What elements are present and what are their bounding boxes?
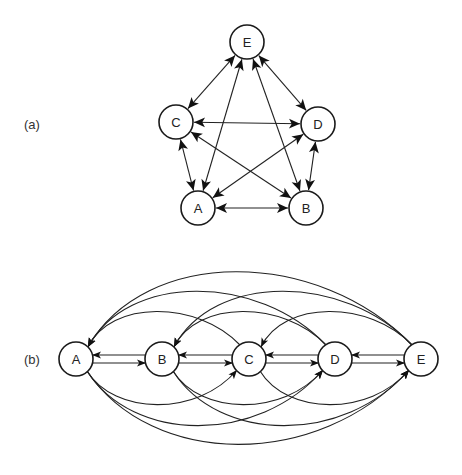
panel-a: (a) ABCDE [24, 25, 335, 225]
edge-b-d [309, 142, 316, 190]
node-label: A [72, 352, 81, 367]
edge-b-c [191, 132, 291, 198]
panel-b-label: (b) [24, 352, 40, 367]
edge-e-b [174, 291, 412, 347]
edge-a-d [213, 134, 304, 197]
node-label: B [158, 352, 167, 367]
node-label: D [313, 117, 322, 132]
node-a: A [59, 342, 93, 376]
panel-a-edges [180, 55, 315, 208]
node-label: E [417, 352, 426, 367]
node-label: B [302, 201, 311, 216]
edge-a-e [203, 59, 242, 190]
panel-a-label: (a) [24, 117, 40, 132]
node-c: C [159, 105, 193, 139]
edge-a-c [180, 139, 193, 190]
edge-d-e [259, 56, 306, 111]
node-b: B [289, 191, 323, 225]
node-label: D [330, 352, 339, 367]
node-label: C [171, 115, 180, 130]
node-e: E [230, 25, 264, 59]
node-label: C [244, 352, 253, 367]
panel-b-nodes: ABCDE [59, 342, 438, 376]
edge-b-e [253, 59, 300, 191]
edge-c-e [188, 55, 235, 108]
node-label: A [194, 201, 203, 216]
graph-diagram: (a) ABCDE (b) ABCDE [0, 0, 462, 475]
panel-b: (b) ABCDE [24, 272, 438, 445]
node-label: E [243, 35, 252, 50]
edge-c-d [194, 122, 300, 123]
panel-a-nodes: ABCDE [159, 25, 335, 225]
node-a: A [181, 191, 215, 225]
node-d: D [318, 342, 352, 376]
node-b: B [145, 342, 179, 376]
node-d: D [301, 107, 335, 141]
node-e: E [404, 342, 438, 376]
node-c: C [232, 342, 266, 376]
